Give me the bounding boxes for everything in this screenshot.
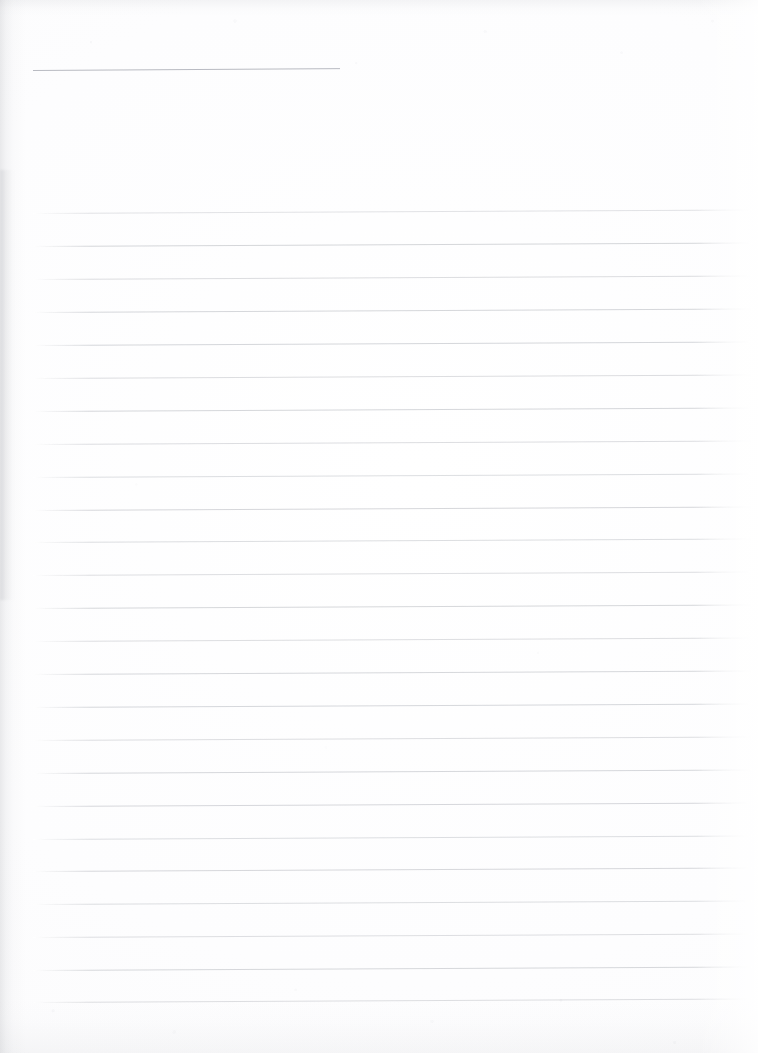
scan-shadow-top-edge [0, 0, 758, 16]
scan-shadow-bottom-edge [0, 1001, 758, 1053]
scan-smudge-left-edge [0, 170, 14, 600]
scanned-page [0, 0, 758, 1053]
paper-grain-texture [0, 0, 758, 1053]
